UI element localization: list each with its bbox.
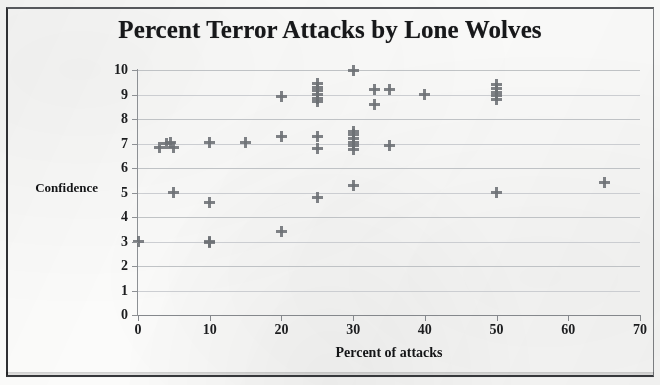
gridline-horizontal <box>138 242 640 243</box>
y-axis-tick-label-text: 2 <box>92 258 128 274</box>
data-point <box>369 99 380 110</box>
data-point <box>204 137 215 148</box>
y-axis-tick <box>132 70 138 71</box>
data-point <box>384 140 395 151</box>
y-axis-tick <box>132 193 138 194</box>
y-axis-tick-label-text: 1 <box>92 283 128 299</box>
x-axis-tick <box>281 315 282 321</box>
data-point <box>369 84 380 95</box>
y-axis-tick-label: 5 <box>88 185 128 201</box>
y-axis-tick-label-text: 9 <box>92 87 128 103</box>
y-axis-tick-label: 6 <box>88 160 128 176</box>
x-axis-tick-label: 10 <box>190 322 230 340</box>
data-point <box>312 96 323 107</box>
gridline-horizontal <box>138 168 640 169</box>
data-point <box>491 94 502 105</box>
gridline-horizontal <box>138 144 640 145</box>
x-axis-tick-label-text: 0 <box>118 322 158 338</box>
y-axis-tick-label: 0 <box>88 307 128 323</box>
y-axis-tick <box>132 291 138 292</box>
gridline-horizontal <box>138 291 640 292</box>
x-axis-tick-label: 50 <box>477 322 517 340</box>
x-axis-tick-label-text: 70 <box>620 322 660 338</box>
y-axis-tick <box>132 119 138 120</box>
data-point <box>312 131 323 142</box>
x-axis-tick <box>210 315 211 321</box>
y-axis-tick-label-text: 5 <box>92 185 128 201</box>
y-axis-tick-label: 2 <box>88 258 128 274</box>
data-point <box>348 129 359 140</box>
y-axis-tick-label-text: 3 <box>92 234 128 250</box>
gridline-horizontal <box>138 70 640 71</box>
x-axis-tick-label-text: 10 <box>190 322 230 338</box>
data-point <box>348 144 359 155</box>
y-axis-tick <box>132 266 138 267</box>
data-point <box>312 82 323 93</box>
gridline-horizontal <box>138 266 640 267</box>
x-axis-tick <box>425 315 426 321</box>
data-point <box>599 177 610 188</box>
figure-border-shadow <box>6 372 654 378</box>
x-axis-line <box>137 315 641 316</box>
x-axis-tick-label: 70 <box>620 322 660 340</box>
data-point <box>348 140 359 151</box>
y-axis-tick-label: 7 <box>88 136 128 152</box>
x-axis-tick-label-text: 20 <box>261 322 301 338</box>
data-point <box>276 91 287 102</box>
y-axis-tick <box>132 95 138 96</box>
data-point <box>204 197 215 208</box>
data-point <box>348 133 359 144</box>
data-point <box>204 237 215 248</box>
figure-page: Percent Terror Attacks by Lone Wolves Co… <box>0 0 660 385</box>
y-axis-tick-label: 8 <box>88 111 128 127</box>
x-axis-tick <box>640 315 641 321</box>
x-axis-tick-label-text: 30 <box>333 322 373 338</box>
y-axis-title: Confidence <box>18 180 98 196</box>
data-point <box>348 137 359 148</box>
y-axis-tick <box>132 144 138 145</box>
data-point <box>491 90 502 101</box>
data-point <box>312 78 323 89</box>
data-point <box>491 87 502 98</box>
x-axis-tick <box>568 315 569 321</box>
gridline-horizontal <box>138 217 640 218</box>
page-title: Percent Terror Attacks by Lone Wolves <box>0 16 660 44</box>
x-axis-tick-label: 60 <box>548 322 588 340</box>
data-point <box>276 226 287 237</box>
y-axis-tick <box>132 242 138 243</box>
y-axis-tick-label-text: 0 <box>92 307 128 323</box>
x-axis-tick-label-text: 60 <box>548 322 588 338</box>
x-axis-tick-label: 0 <box>118 322 158 340</box>
data-point <box>348 180 359 191</box>
data-point <box>348 126 359 137</box>
x-axis-tick <box>353 315 354 321</box>
plot-area <box>138 70 640 315</box>
y-axis-tick <box>132 217 138 218</box>
data-point <box>312 192 323 203</box>
data-point <box>491 79 502 90</box>
y-axis-tick-label-text: 4 <box>92 209 128 225</box>
data-point <box>312 143 323 154</box>
gridline-horizontal <box>138 193 640 194</box>
y-axis-tick <box>132 168 138 169</box>
x-axis-title: Percent of attacks <box>138 345 640 361</box>
x-axis-tick <box>497 315 498 321</box>
x-axis-tick-label: 20 <box>261 322 301 340</box>
y-axis-tick-label: 4 <box>88 209 128 225</box>
x-axis-tick-label: 40 <box>405 322 445 340</box>
y-axis-tick-label-text: 7 <box>92 136 128 152</box>
y-axis-tick-label: 3 <box>88 234 128 250</box>
y-axis-tick-label: 1 <box>88 283 128 299</box>
data-point <box>240 137 251 148</box>
y-axis-tick-label: 10 <box>88 62 128 78</box>
x-axis-tick <box>138 315 139 321</box>
gridline-horizontal <box>138 95 640 96</box>
y-axis-tick-label-text: 6 <box>92 160 128 176</box>
data-point <box>384 84 395 95</box>
x-axis-tick-label-text: 50 <box>477 322 517 338</box>
data-point <box>491 83 502 94</box>
x-axis-tick-label: 30 <box>333 322 373 340</box>
y-axis-tick-label-text: 10 <box>92 62 128 78</box>
x-axis-tick-label-text: 40 <box>405 322 445 338</box>
y-axis-tick-label-text: 8 <box>92 111 128 127</box>
